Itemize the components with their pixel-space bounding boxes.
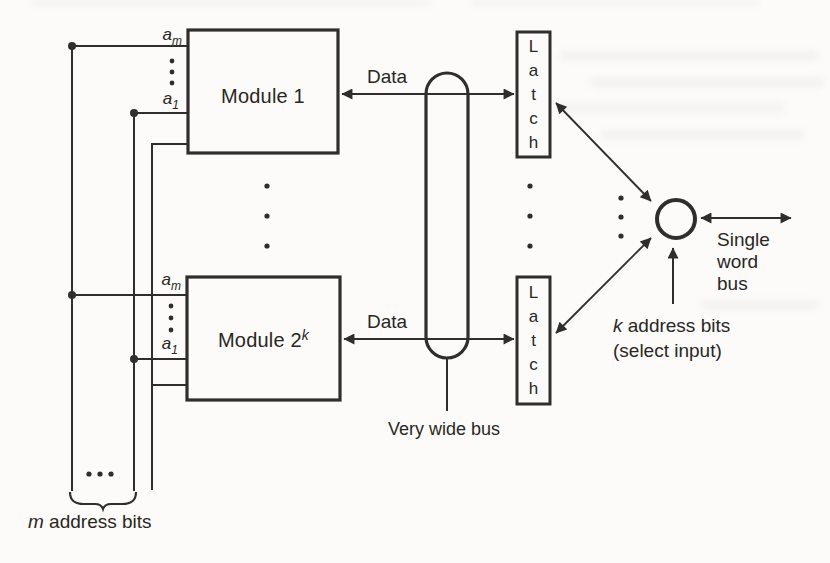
- junction-dot: [68, 291, 76, 299]
- ellipsis-module2-address: [169, 304, 174, 333]
- single-word-bus-label: Single word bus: [717, 229, 770, 295]
- address-bits-brace: [70, 492, 136, 509]
- module1-am-label: am: [148, 25, 182, 49]
- junction-dot: [68, 42, 76, 50]
- address-line-a1: [134, 113, 188, 491]
- very-wide-bus-label: Very wide bus: [374, 419, 514, 440]
- ellipsis-module1-address: [170, 59, 175, 86]
- latch1-mux-arrow: [556, 103, 651, 201]
- latch2-letter: a: [517, 305, 550, 329]
- latch1-label: L a t c h: [517, 35, 550, 155]
- multiplexer-node: [657, 200, 695, 238]
- latch1-letter: L: [517, 35, 550, 59]
- diagram-canvas: am a1 am a1 Module 1 Module 2k Data Data…: [0, 0, 830, 563]
- module2-am-label: am: [147, 270, 181, 294]
- latch2-letter: c: [517, 353, 550, 377]
- latch1-letter: h: [517, 131, 550, 155]
- module2-a1-label: a1: [152, 334, 178, 358]
- module2-title: Module 2k: [187, 327, 340, 352]
- latch-mux-arrows: [556, 103, 651, 333]
- m-address-bits-label: m address bits: [28, 511, 152, 533]
- latch1-letter: a: [517, 59, 550, 83]
- junction-dot: [130, 355, 138, 363]
- k-address-bits-label: k address bits (select input): [613, 313, 730, 363]
- data-label-bottom: Data: [352, 311, 422, 333]
- ellipsis-between-latches: [527, 183, 532, 248]
- latch2-label: L a t c h: [517, 281, 550, 401]
- ellipsis-address-bits: [86, 471, 113, 476]
- very-wide-bus-oval: [426, 73, 468, 358]
- ellipsis-between-modules: [264, 183, 269, 248]
- junction-dots: [68, 42, 138, 363]
- data-arrows: [342, 94, 514, 339]
- junction-dot: [130, 109, 138, 117]
- module1-a1-label: a1: [153, 89, 179, 113]
- data-label-top: Data: [352, 66, 422, 88]
- latch2-letter: t: [517, 329, 550, 353]
- ellipsis-left-of-mux: [618, 195, 623, 238]
- latch1-letter: t: [517, 83, 550, 107]
- latch1-letter: c: [517, 107, 550, 131]
- latch2-letter: h: [517, 377, 550, 401]
- latch2-letter: L: [517, 281, 550, 305]
- module1-title: Module 1: [188, 83, 338, 108]
